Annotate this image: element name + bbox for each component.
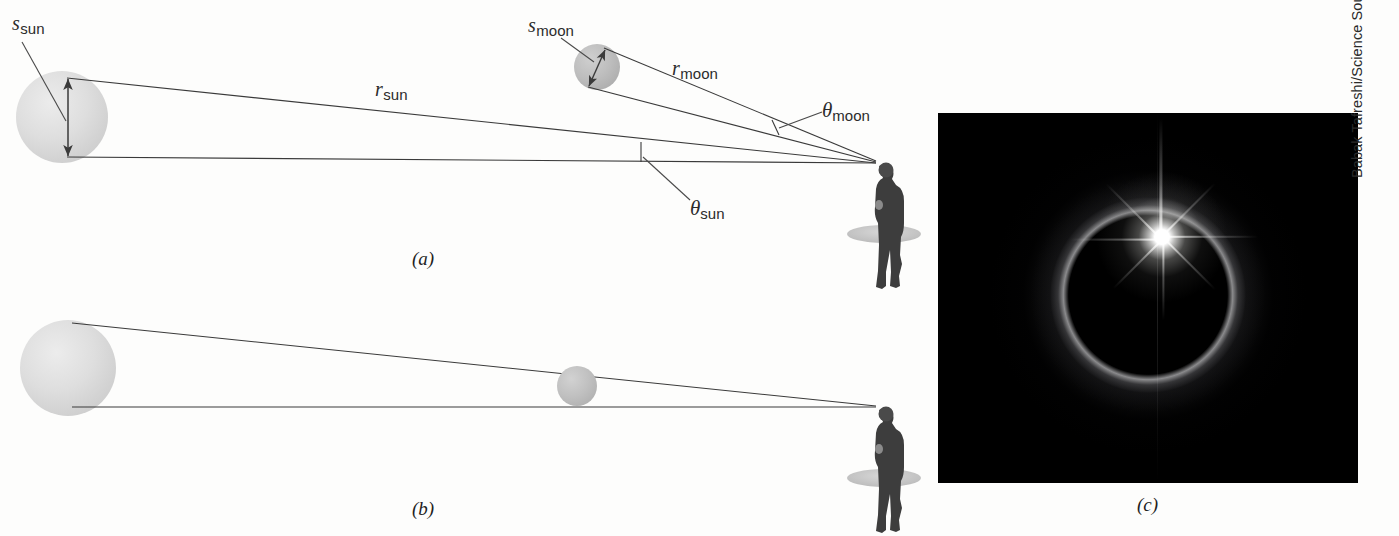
sun-sphere-panel-b: [20, 320, 116, 416]
label-s-moon: smoon: [528, 14, 574, 39]
photo-credit: Babak Tafreshi/Science Source: [1349, 0, 1365, 178]
panel-b-diagram: [20, 320, 921, 533]
observer-head-b: [879, 407, 894, 422]
panel-label-a: (a): [412, 248, 434, 270]
observer-body-b: [875, 408, 904, 533]
observer-body-a: [875, 164, 904, 289]
sun-ray-upper: [67, 78, 876, 163]
sun-ray-upper-b: [72, 323, 876, 406]
label-theta-sun: θsun: [690, 196, 725, 222]
theta-moon-arc: [772, 120, 779, 135]
theta-sun-leader: [643, 157, 690, 200]
theta-moon-leader: [779, 112, 822, 128]
sun-ray-lower: [67, 157, 876, 163]
observer-figure-panel-a: [847, 163, 921, 290]
label-theta-moon: θmoon: [822, 98, 870, 124]
label-r-sun: rsun: [375, 78, 407, 103]
panel-label-b: (b): [412, 498, 434, 520]
observer-hand-b: [875, 444, 883, 454]
observer-head-a: [879, 163, 894, 178]
diamond-ring-flare: [1087, 162, 1237, 312]
observer-figure-panel-b: [847, 407, 921, 534]
label-r-moon: rmoon: [672, 57, 718, 82]
panel-a-diagram: [16, 38, 921, 289]
observer-hand-a: [875, 200, 883, 210]
sun-sphere-panel-a: [16, 71, 108, 163]
label-s-sun: ssun: [12, 12, 44, 37]
moon-sphere-panel-b: [557, 366, 597, 406]
panel-label-c: (c): [1137, 494, 1158, 516]
eclipse-photograph: [938, 113, 1358, 483]
